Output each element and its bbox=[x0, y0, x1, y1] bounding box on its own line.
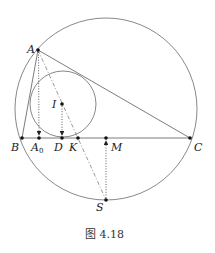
label-D: D bbox=[53, 141, 63, 154]
label-S: S bbox=[96, 201, 104, 214]
point-I bbox=[60, 102, 64, 106]
point-M bbox=[104, 136, 108, 140]
label-C: C bbox=[194, 141, 203, 154]
label-K: K bbox=[68, 141, 78, 154]
point-B bbox=[20, 136, 24, 140]
side-AC bbox=[38, 50, 190, 138]
side-AB bbox=[22, 50, 38, 138]
arrow-A-A0 bbox=[39, 52, 40, 135]
label-M: M bbox=[110, 141, 123, 154]
label-I: I bbox=[51, 98, 57, 111]
point-A0 bbox=[37, 136, 41, 140]
circumcircle bbox=[15, 18, 197, 200]
points bbox=[20, 48, 192, 202]
figure-caption: 图 4.18 bbox=[85, 228, 124, 241]
point-A bbox=[36, 48, 40, 52]
label-B: B bbox=[10, 141, 19, 154]
point-C bbox=[188, 136, 192, 140]
label-A0: A0 bbox=[30, 141, 43, 155]
point-K bbox=[76, 136, 80, 140]
point-S bbox=[104, 198, 108, 202]
point-D bbox=[60, 136, 64, 140]
geometry-figure: A B C I A0 D K M S 图 4.18 bbox=[0, 0, 215, 253]
label-A: A bbox=[26, 43, 35, 56]
